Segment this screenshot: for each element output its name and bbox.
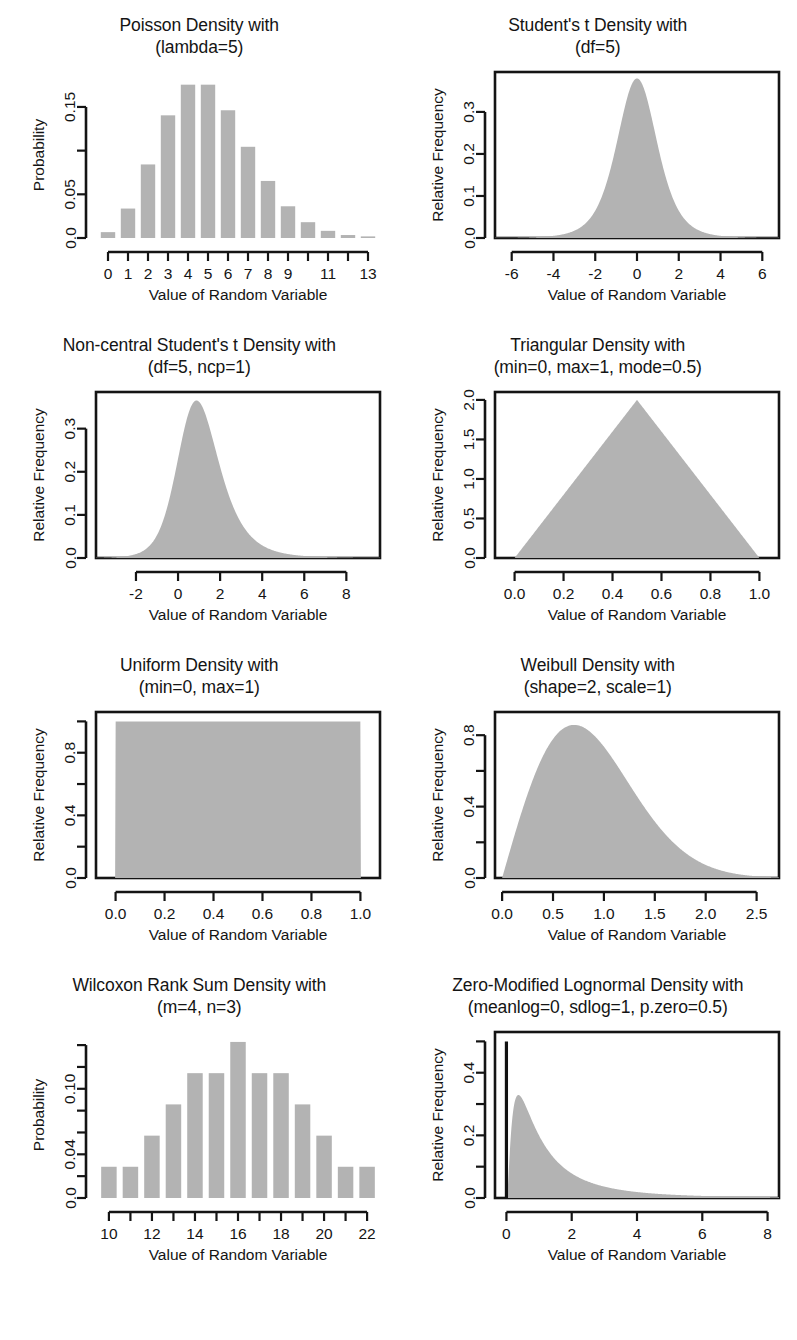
x-tick-label: 2: [674, 265, 683, 282]
x-tick-label: 2.0: [694, 905, 716, 922]
y-tick-label: 0.3: [460, 101, 477, 123]
panel-title-triangular: Triangular Density with (min=0, max=1, m…: [399, 334, 797, 379]
panel-title-students-t: Student's t Density with (df=5): [399, 14, 797, 59]
y-axis-title: Relative Frequency: [30, 728, 47, 862]
panel-wilcoxon-rank-sum: Wilcoxon Rank Sum Density with (m=4, n=3…: [0, 960, 399, 1340]
title-line-1: Student's t Density with: [508, 15, 687, 35]
x-tick-label: 4: [716, 265, 725, 282]
x-tick-label: 6: [757, 265, 766, 282]
panel-zero-modified-lognormal: Zero-Modified Lognormal Density with (me…: [399, 960, 797, 1340]
panel-title-zero-modified-lognormal: Zero-Modified Lognormal Density with (me…: [399, 974, 797, 1019]
y-tick-label: 0.0: [62, 1187, 79, 1209]
y-tick-label: 0.2: [460, 143, 477, 165]
title-line-2: (df=5, ncp=1): [0, 356, 399, 378]
panel-students-t: Student's t Density with (df=5) 0.00.10.…: [399, 0, 797, 320]
y-axis-title: Relative Frequency: [428, 1048, 445, 1182]
y-tick-label: 0.04: [62, 1139, 79, 1170]
x-tick-label: 6: [300, 585, 309, 602]
x-tick-label: 8: [264, 265, 273, 282]
x-tick-label: 6: [697, 1225, 706, 1242]
y-axis-title: Relative Frequency: [428, 408, 445, 542]
x-tick-label: 1.0: [748, 585, 770, 602]
y-tick-label: 0.0: [460, 1187, 477, 1209]
x-axis-title: Value of Random Variable: [547, 606, 726, 623]
x-tick-label: 0.0: [491, 905, 513, 922]
panel-title-wilcoxon-rank-sum: Wilcoxon Rank Sum Density with (m=4, n=3…: [0, 974, 399, 1019]
y-tick-label: 0.0: [460, 867, 477, 889]
y-tick-label: 0.4: [62, 804, 79, 826]
x-axis-title: Value of Random Variable: [547, 286, 726, 303]
panel-non-central-students-t: Non-central Student's t Density with (df…: [0, 320, 399, 640]
title-line-2: (shape=2, scale=1): [399, 676, 797, 698]
x-tick-label: 3: [164, 265, 173, 282]
x-axis-title: Value of Random Variable: [149, 286, 328, 303]
title-line-2: (meanlog=0, sdlog=1, p.zero=0.5): [399, 996, 797, 1018]
title-line-2: (min=0, max=1): [0, 676, 399, 698]
y-tick-label: 0.4: [460, 795, 477, 817]
x-tick-label: 0.0: [503, 585, 525, 602]
y-tick-label: 0.5: [460, 508, 477, 530]
title-line-2: (lambda=5): [0, 36, 399, 58]
panel-triangular: Triangular Density with (min=0, max=1, m…: [399, 320, 797, 640]
y-axis-title: Relative Frequency: [428, 88, 445, 222]
x-tick-label: 10: [100, 1225, 118, 1242]
plot-area-wilcoxon-rank-sum: 0.00.040.10Probability10121416182022Valu…: [0, 1020, 399, 1270]
x-tick-label: 8: [342, 585, 351, 602]
panel-uniform: Uniform Density with (min=0, max=1) 0.00…: [0, 640, 399, 960]
x-axis-title: Value of Random Variable: [547, 926, 726, 943]
x-tick-label: 0.2: [552, 585, 574, 602]
y-tick-label: 0.15: [62, 92, 79, 122]
plot-area-students-t: 0.00.10.20.3Relative Frequency-6-4-20246…: [399, 60, 797, 310]
x-tick-label: 16: [229, 1225, 246, 1242]
x-axis-title: Value of Random Variable: [149, 1246, 328, 1263]
title-line-1: Triangular Density with: [510, 335, 685, 355]
y-tick-label: 0.0: [62, 227, 79, 249]
x-tick-label: 12: [143, 1225, 160, 1242]
plot-area-triangular: 0.00.51.01.52.0Relative Frequency0.00.20…: [399, 380, 797, 630]
title-line-1: Poisson Density with: [120, 15, 279, 35]
y-tick-label: 0.4: [460, 1062, 477, 1084]
title-line-2: (min=0, max=1, mode=0.5): [399, 356, 797, 378]
y-tick-label: 0.0: [460, 227, 477, 249]
x-tick-label: 1: [124, 265, 133, 282]
y-tick-label: 0.3: [62, 418, 79, 440]
x-tick-label: 18: [272, 1225, 289, 1242]
x-axis-title: Value of Random Variable: [547, 1246, 726, 1263]
y-axis-title: Probability: [30, 1079, 47, 1152]
x-tick-label: 0.2: [154, 905, 176, 922]
x-tick-label: 0: [632, 265, 641, 282]
x-axis-title: Value of Random Variable: [149, 926, 328, 943]
y-tick-label: 0.8: [460, 724, 477, 746]
x-tick-label: 11: [320, 265, 336, 282]
x-tick-label: 1.0: [350, 905, 372, 922]
x-tick-label: 0.6: [252, 905, 274, 922]
x-tick-label: 4: [258, 585, 267, 602]
x-tick-label: 2: [144, 265, 153, 282]
x-tick-label: -2: [588, 265, 602, 282]
x-tick-label: 6: [224, 265, 233, 282]
x-tick-label: 2.5: [745, 905, 767, 922]
plot-area-non-central-students-t: 0.00.10.20.3Relative Frequency-202468Val…: [0, 380, 399, 630]
y-tick-label: 2.0: [460, 389, 477, 411]
x-tick-label: -4: [546, 265, 560, 282]
title-line-1: Zero-Modified Lognormal Density with: [452, 975, 743, 995]
y-tick-label: 0.05: [62, 179, 79, 209]
y-tick-label: 0.0: [62, 547, 79, 569]
x-tick-label: 1.0: [593, 905, 615, 922]
x-tick-label: 8: [763, 1225, 772, 1242]
y-axis-title: Relative Frequency: [30, 408, 47, 542]
x-tick-label: 0.8: [699, 585, 721, 602]
x-tick-label: 4: [632, 1225, 641, 1242]
title-line-1: Non-central Student's t Density with: [63, 335, 336, 355]
x-tick-label: 0: [502, 1225, 511, 1242]
panel-title-weibull: Weibull Density with (shape=2, scale=1): [399, 654, 797, 699]
plot-area-weibull: 0.00.40.8Relative Frequency0.00.51.01.52…: [399, 700, 797, 950]
y-tick-label: 0.8: [62, 742, 79, 764]
y-tick-label: 0.0: [62, 867, 79, 889]
plot-area-uniform: 0.00.40.8Relative Frequency0.00.20.40.60…: [0, 700, 399, 950]
y-tick-label: 0.2: [62, 461, 79, 483]
y-tick-label: 1.0: [460, 468, 477, 490]
x-tick-label: 9: [284, 265, 293, 282]
plot-area-poisson: 0.00.050.15Probability01234567891113Valu…: [0, 60, 399, 310]
y-tick-label: 0.10: [62, 1073, 79, 1104]
